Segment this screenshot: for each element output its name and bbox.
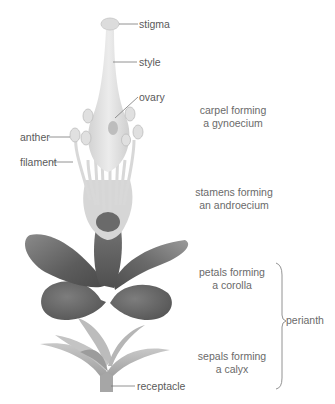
sepals-shape xyxy=(40,318,170,376)
lower-petals-shape xyxy=(41,281,172,320)
group-petals-line2: a corolla xyxy=(192,279,272,292)
label-ovary: ovary xyxy=(139,91,165,103)
group-stamens-line1: stamens forming xyxy=(191,186,277,199)
label-stigma: stigma xyxy=(139,18,170,30)
group-stamens-line2: an androecium xyxy=(191,199,277,212)
group-sepals: sepals forming a calyx xyxy=(192,350,272,376)
group-carpel-line2: a gynoecium xyxy=(193,117,273,130)
label-style: style xyxy=(139,56,161,68)
group-sepals-line1: sepals forming xyxy=(192,350,272,363)
label-receptacle: receptacle xyxy=(137,380,185,392)
flower-diagram xyxy=(0,0,335,404)
label-filament: filament xyxy=(20,156,57,168)
label-anther: anther xyxy=(20,131,50,143)
label-perianth: perianth xyxy=(286,314,324,326)
group-carpel-line1: carpel forming xyxy=(193,104,273,117)
group-carpel: carpel forming a gynoecium xyxy=(193,104,273,130)
carpel-shape xyxy=(88,18,129,172)
group-petals-line1: petals forming xyxy=(192,266,272,279)
receptacle-shape xyxy=(100,372,113,392)
group-stamens: stamens forming an androecium xyxy=(191,186,277,212)
group-sepals-line2: a calyx xyxy=(192,363,272,376)
group-petals: petals forming a corolla xyxy=(192,266,272,292)
